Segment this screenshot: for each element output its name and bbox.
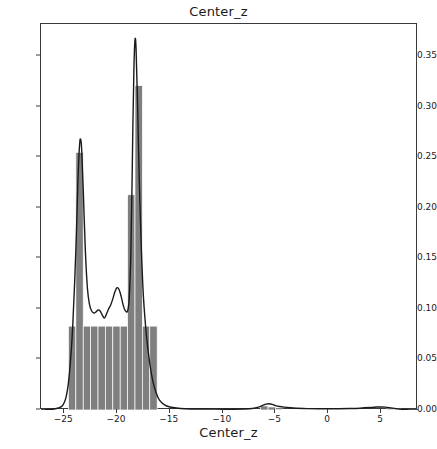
x-axis-tick-label: −25 [43, 414, 83, 424]
x-axis-tick-mark [63, 409, 64, 413]
x-axis-tick-mark [274, 409, 275, 413]
histogram-bar [120, 326, 127, 410]
histogram-bar [275, 409, 282, 410]
chart-title: Center_z [0, 4, 437, 19]
x-axis-tick-label: 0 [307, 414, 347, 424]
x-axis-tick-label: −10 [202, 414, 242, 424]
distribution-plot [41, 24, 418, 410]
histogram-bar [83, 326, 90, 410]
histogram-bar [91, 326, 98, 410]
histogram-bar [386, 409, 393, 410]
x-axis-label: Center_z [40, 425, 417, 440]
histogram-bars [68, 86, 401, 410]
x-axis-tick-mark [116, 409, 117, 413]
figure-canvas: Center_z 0.000.050.100.150.200.250.300.3… [0, 0, 437, 449]
histogram-bar [105, 326, 112, 410]
x-axis-tick-mark [222, 409, 223, 413]
x-axis-tick-label: 5 [360, 414, 400, 424]
x-axis-tick-mark [327, 409, 328, 413]
x-axis-tick-mark [169, 409, 170, 413]
x-axis-tick-label: −5 [254, 414, 294, 424]
x-axis-tick-label: −15 [149, 414, 189, 424]
plot-area [40, 23, 417, 409]
x-axis-tick-mark [380, 409, 381, 413]
histogram-bar [98, 326, 105, 410]
histogram-bar [113, 326, 120, 410]
x-axis-tick-label: −20 [96, 414, 136, 424]
